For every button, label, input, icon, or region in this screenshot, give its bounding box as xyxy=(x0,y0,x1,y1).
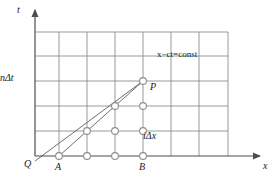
marker-point-a xyxy=(56,153,63,160)
characteristic-line-from-q xyxy=(35,81,143,161)
marker-point xyxy=(112,128,119,135)
marker-point xyxy=(140,103,147,110)
marker-point xyxy=(112,153,119,160)
figure-canvas xyxy=(0,0,274,181)
marker-point-p xyxy=(140,78,147,85)
spacetime-lattice-figure: t x Q A B P nΔt iΔx x−ct=const xyxy=(0,0,274,181)
marker-point xyxy=(84,153,91,160)
characteristic-lines xyxy=(35,81,143,161)
marker-point xyxy=(112,103,119,110)
marker-point xyxy=(84,128,91,135)
characteristic-line-from-a xyxy=(59,81,143,156)
point-label-a: A xyxy=(55,162,61,172)
characteristic-annotation: x−ct=const xyxy=(157,50,197,59)
x-axis-label: x xyxy=(263,161,267,171)
t-axis-label: t xyxy=(17,5,20,15)
time-step-label: nΔt xyxy=(0,73,14,83)
point-label-b: B xyxy=(139,162,145,172)
point-label-p: P xyxy=(150,82,156,92)
origin-label-q: Q xyxy=(24,159,31,169)
space-step-label: iΔx xyxy=(143,131,156,141)
marker-point-b xyxy=(140,153,147,160)
